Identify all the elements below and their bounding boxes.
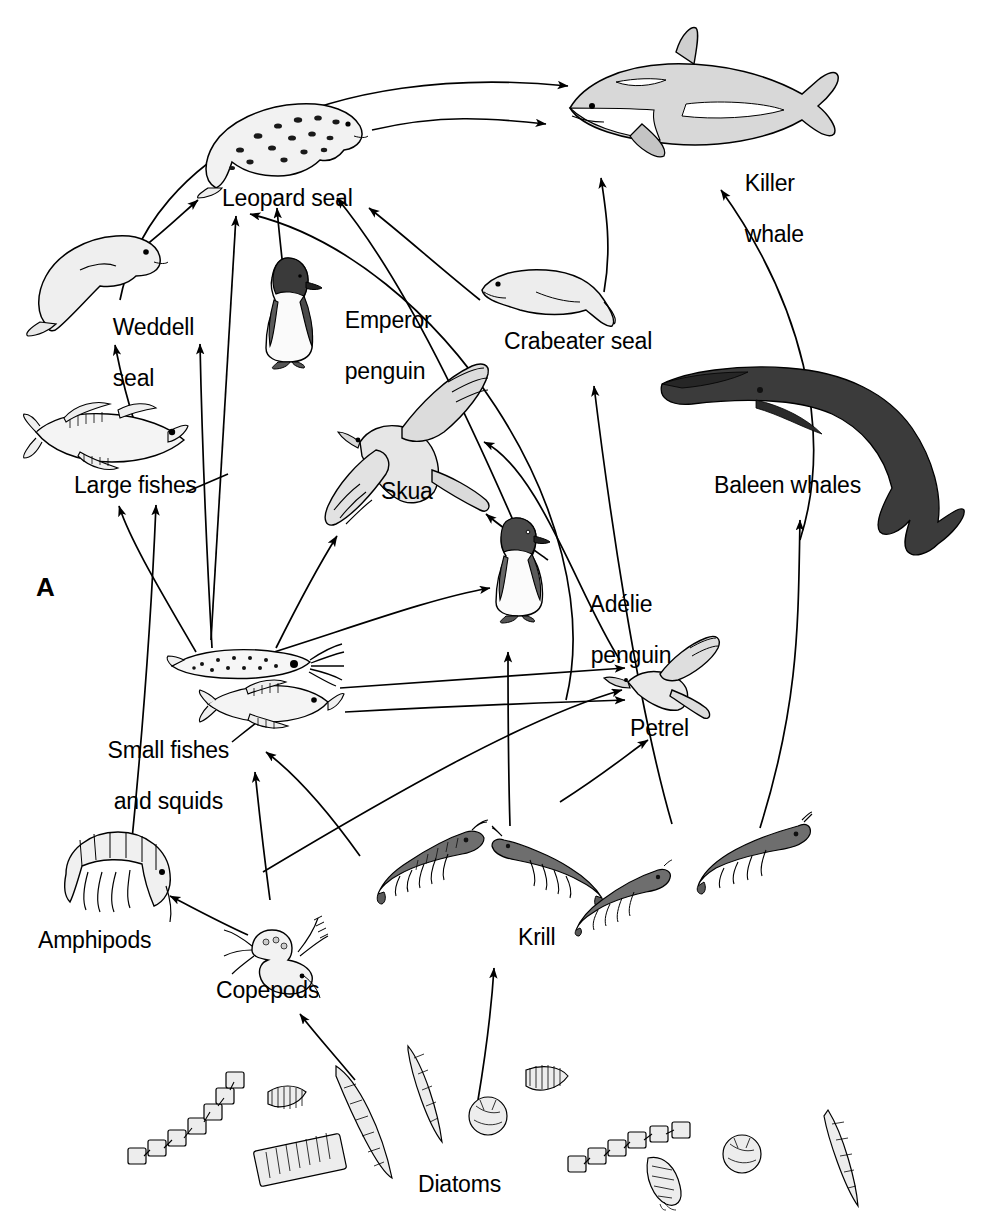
- emperor-penguin-illustration: [254, 252, 324, 370]
- krill-illustration-4: [692, 812, 812, 894]
- label-small-fishes-line1: Small fishes: [108, 737, 230, 763]
- label-emperor-penguin: Emperor penguin: [320, 282, 432, 411]
- label-baleen-whales: Baleen whales: [714, 473, 861, 499]
- label-adelie-penguin: Adélie penguin: [566, 566, 671, 695]
- arrow-smallfish-to-largefish: [119, 506, 196, 652]
- label-amphipods: Amphipods: [38, 928, 151, 954]
- arrow-krill-to-petrel: [560, 740, 648, 802]
- leopard-seal-illustration: [188, 92, 370, 200]
- label-adelie-penguin-line2: penguin: [591, 642, 671, 668]
- label-weddell-seal-line1: Weddell: [113, 314, 194, 340]
- krill-illustration-3: [568, 860, 672, 936]
- label-krill: Krill: [518, 925, 555, 951]
- panel-letter-a: A: [36, 572, 55, 603]
- label-killer-whale-line2: whale: [745, 221, 804, 247]
- label-killer-whale-line1: Killer: [745, 170, 795, 196]
- label-emperor-penguin-line2: penguin: [345, 358, 425, 384]
- antarctic-food-web-figure: A Killer whale Leopard seal Weddell seal…: [0, 0, 1006, 1215]
- arrow-krillzone-to-smallfish: [266, 752, 360, 856]
- label-small-fishes-line2: and squids: [114, 788, 223, 814]
- label-leopard-seal: Leopard seal: [222, 186, 353, 212]
- krill-illustration-1: [370, 820, 488, 906]
- arrow-krill-to-adelie: [508, 652, 510, 826]
- baleen-whale-illustration: [656, 356, 966, 572]
- label-skua: Skua: [381, 479, 433, 505]
- arrow-copepods-to-smallfish: [255, 772, 270, 900]
- arrow-leopard-to-killer: [372, 119, 546, 130]
- label-emperor-penguin-line1: Emperor: [345, 307, 432, 333]
- label-copepods: Copepods: [216, 978, 319, 1004]
- label-petrel: Petrel: [630, 716, 689, 742]
- label-weddell-seal-line2: seal: [113, 365, 154, 391]
- diatoms-illustration-cluster-center: [380, 1040, 580, 1160]
- arrow-smallfish2-to-petrel: [345, 700, 625, 712]
- adelie-penguin-illustration: [486, 512, 556, 622]
- label-adelie-penguin-line1: Adélie: [590, 591, 653, 617]
- label-diatoms: Diatoms: [418, 1172, 501, 1198]
- arrow-smallfish-to-leopard: [211, 216, 236, 640]
- arrow-smallfish-to-emperor: [200, 344, 212, 648]
- label-killer-whale: Killer whale: [720, 145, 804, 274]
- label-small-fishes-and-squids: Small fishes and squids: [72, 712, 240, 841]
- diatoms-illustration-cluster-right: [560, 1110, 960, 1210]
- killer-whale-illustration: [556, 24, 856, 164]
- label-large-fishes: Large fishes: [74, 473, 197, 499]
- label-weddell-seal: Weddell seal: [88, 289, 194, 418]
- label-crabeater-seal: Crabeater seal: [504, 329, 652, 355]
